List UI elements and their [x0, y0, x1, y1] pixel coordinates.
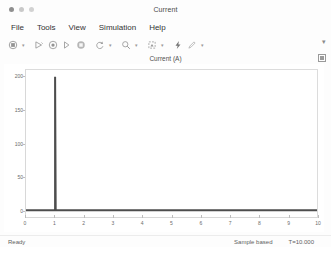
zoom-icon[interactable] — [120, 38, 132, 51]
x-axis-tick-label: 4 — [141, 220, 144, 226]
window-bottom-edge — [0, 247, 331, 261]
fit-to-view-icon[interactable] — [146, 38, 158, 51]
print-icon[interactable] — [7, 38, 19, 51]
x-axis-tick-label: 9 — [287, 220, 290, 226]
x-axis-tick-mark — [113, 215, 114, 218]
x-axis: 012345678910 — [25, 218, 318, 232]
x-axis-tick-mark — [318, 215, 319, 218]
measurements-icon[interactable] — [172, 38, 184, 51]
scope-window: Current File Tools View Simulation Help … — [0, 0, 331, 261]
x-axis-tick-label: 0 — [24, 220, 27, 226]
toolbar-overflow-button[interactable]: ▾ — [322, 38, 326, 46]
record-icon[interactable] — [47, 38, 59, 51]
x-axis-tick-mark — [142, 215, 143, 218]
axes-frame[interactable] — [25, 69, 318, 218]
fit-to-view-caret-icon[interactable]: ▾ — [160, 43, 165, 48]
menu-item-help[interactable]: Help — [149, 24, 165, 32]
x-axis-tick-label: 5 — [170, 220, 173, 226]
status-frame-mode: Sample based — [234, 239, 272, 245]
x-axis-tick-mark — [54, 215, 55, 218]
x-axis-tick-mark — [289, 215, 290, 218]
x-axis-tick-label: 10 — [315, 220, 321, 226]
x-axis-tick-mark — [201, 215, 202, 218]
y-axis-tick-label: 200 — [15, 73, 23, 79]
x-axis-tick-label: 7 — [229, 220, 232, 226]
zoom-caret-icon[interactable]: ▾ — [134, 43, 139, 48]
menu-item-view[interactable]: View — [69, 24, 86, 32]
x-axis-tick-label: 8 — [258, 220, 261, 226]
x-axis-tick-label: 2 — [82, 220, 85, 226]
menu-item-simulation[interactable]: Simulation — [99, 24, 136, 32]
menu-item-tools[interactable]: Tools — [37, 24, 56, 32]
stop-icon[interactable] — [75, 38, 87, 51]
x-axis-tick-mark — [172, 215, 173, 218]
status-bar: Ready Sample based T=10.000 — [0, 235, 331, 247]
x-axis-tick-label: 6 — [199, 220, 202, 226]
window-title: Current — [0, 6, 331, 13]
menu-item-file[interactable]: File — [11, 24, 24, 32]
x-axis-tick-mark — [25, 215, 26, 218]
status-ready-label: Ready — [8, 239, 25, 245]
y-axis-tick-label: 150 — [15, 107, 23, 113]
run-icon[interactable] — [33, 38, 45, 51]
y-axis-tick-label: 100 — [15, 141, 23, 147]
print-caret-icon[interactable]: ▾ — [21, 43, 26, 48]
data-series-current — [26, 70, 317, 217]
x-axis-tick-mark — [259, 215, 260, 218]
refresh-icon[interactable] — [94, 38, 106, 51]
title-bar: Current — [0, 0, 331, 20]
toolbar: ▾ ▾ ▾ ▾ — [0, 36, 331, 53]
x-axis-tick-label: 3 — [112, 220, 115, 226]
plot-title: Current (A) — [0, 53, 331, 64]
x-axis-tick-mark — [84, 215, 85, 218]
x-axis-tick-label: 1 — [53, 220, 56, 226]
step-forward-icon[interactable] — [61, 38, 73, 51]
legend-toggle-icon[interactable] — [318, 54, 326, 62]
annotation-icon[interactable] — [186, 38, 198, 51]
annotation-caret-icon[interactable]: ▾ — [200, 43, 205, 48]
refresh-caret-icon[interactable]: ▾ — [108, 43, 113, 48]
status-simulation-time: T=10.000 — [288, 239, 314, 245]
menu-bar: File Tools View Simulation Help — [0, 20, 331, 36]
x-axis-tick-mark — [230, 215, 231, 218]
plot-area[interactable]: 050100150200 012345678910 — [4, 64, 324, 232]
series-line — [26, 77, 317, 211]
plot-title-bar: Current (A) — [0, 53, 331, 64]
y-axis: 050100150200 — [4, 69, 23, 218]
